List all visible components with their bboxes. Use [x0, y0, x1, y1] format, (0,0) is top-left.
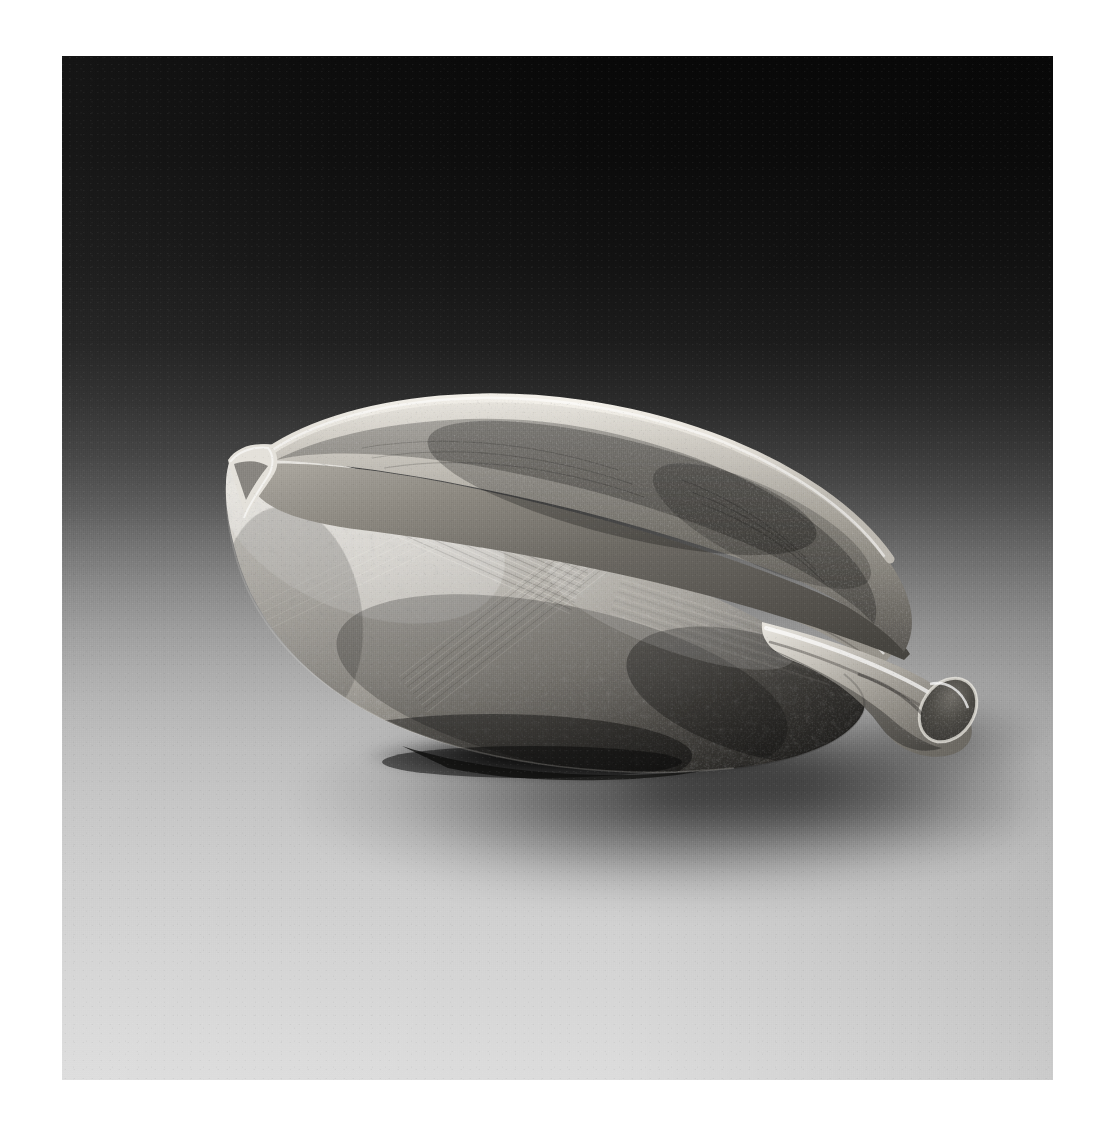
photo-page: [0, 0, 1099, 1147]
spout-cast-shadow: [852, 696, 1053, 786]
contact-shadow: [362, 736, 792, 784]
photograph-plate: [62, 56, 1053, 1080]
